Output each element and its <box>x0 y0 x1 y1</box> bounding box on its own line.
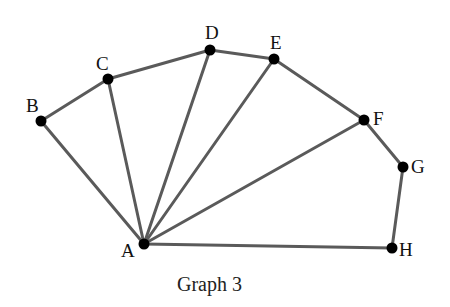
node-B <box>36 116 47 127</box>
edge-C-D <box>108 50 210 79</box>
edge-A-F <box>144 120 364 244</box>
node-D <box>205 45 216 56</box>
graph-caption: Graph 3 <box>177 273 242 296</box>
node-label-G: G <box>411 156 425 177</box>
node-label-A: A <box>121 240 135 261</box>
edge-B-C <box>41 79 108 121</box>
node-E <box>269 54 280 65</box>
edge-A-B <box>41 121 144 244</box>
node-C <box>103 74 114 85</box>
edge-A-D <box>144 50 210 244</box>
graph-labels: ABCDEFGH <box>26 22 425 261</box>
edge-G-H <box>392 167 403 248</box>
graph-edges <box>41 50 403 248</box>
node-A <box>139 239 150 250</box>
edge-E-F <box>274 59 364 120</box>
edge-A-H <box>144 244 392 248</box>
node-F <box>359 115 370 126</box>
node-H <box>387 243 398 254</box>
node-label-D: D <box>205 22 219 43</box>
edge-A-E <box>144 59 274 244</box>
node-label-B: B <box>26 95 39 116</box>
node-G <box>398 162 409 173</box>
node-label-C: C <box>96 53 109 74</box>
graph-nodes <box>36 45 409 254</box>
node-label-E: E <box>270 32 282 53</box>
node-label-H: H <box>399 239 413 260</box>
edge-D-E <box>210 50 274 59</box>
edge-A-C <box>108 79 144 244</box>
node-label-F: F <box>373 108 384 129</box>
graph-diagram: ABCDEFGH <box>0 0 450 307</box>
